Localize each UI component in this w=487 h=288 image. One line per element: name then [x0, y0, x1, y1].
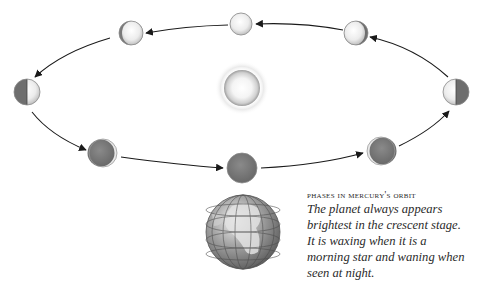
caption-line: seen at night. [307, 265, 487, 281]
caption-line: morning star and waning when [307, 249, 487, 265]
arrow-top-right-to-top [256, 24, 343, 30]
mercury-phase-new [227, 153, 257, 183]
caption-line: brightest in the crescent stage. [307, 217, 487, 233]
arrow-left-to-lower-left [32, 112, 86, 150]
mercury-phase-gibbous-right [344, 21, 368, 45]
caption: PHASES IN MERCURY'S ORBIT The planet alw… [307, 189, 487, 281]
mercury-phase-half-right [443, 79, 469, 105]
mercury-phase-gibbous-left [119, 21, 143, 45]
arrow-top-left-to-left [35, 38, 110, 77]
caption-title: PHASES IN MERCURY'S ORBIT [307, 189, 487, 201]
caption-body: The planet always appears brightest in t… [307, 201, 487, 281]
sun-icon [215, 61, 269, 115]
mercury-phase-crescent-left [88, 139, 118, 167]
mercury-phase-half-left [14, 79, 40, 105]
caption-line: The planet always appears [307, 201, 487, 217]
arrow-top-to-top-left [146, 25, 228, 33]
arrow-lower-left-to-bottom [121, 157, 223, 168]
mercury-phase-crescent-right [367, 137, 397, 165]
mercury-phase-full [230, 13, 252, 35]
arrow-right-to-top-right [370, 37, 448, 77]
arrow-bottom-to-lower-right [261, 153, 363, 168]
caption-line: It is waxing when it is a [307, 233, 487, 249]
arrow-lower-right-to-right [399, 111, 449, 146]
earth-globe-icon [206, 195, 280, 269]
